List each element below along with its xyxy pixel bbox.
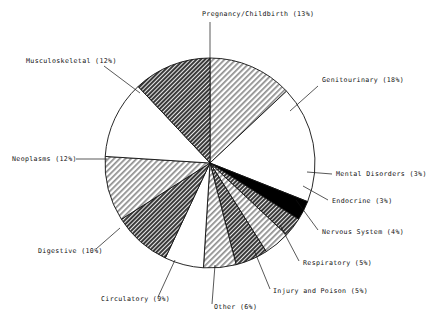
leader-line [254,250,270,289]
pie-slice-label: Pregnancy/Childbirth (13%) [202,10,314,18]
pie-chart-figure: Pregnancy/Childbirth (13%)Genitourinary … [0,0,430,327]
pie-slice-label: Respiratory (5%) [303,259,372,267]
leader-line [290,86,318,111]
pie-slice-label: Digestive (10%) [38,247,103,255]
pie-slice-label: Mental Disorders (3%) [336,170,427,178]
pie-slice-label: Circulatory (9%) [101,295,170,303]
pie-slice-label: Musculoskeletal (12%) [26,57,117,65]
pie-slice-label: Injury and Poison (5%) [273,287,368,295]
pie-slice-label: Nervous System (4%) [322,228,404,236]
pie-slice-label: Other (6%) [214,303,257,311]
pie-slices [105,58,315,268]
leader-line [158,260,175,297]
pie-slice-label: Genitourinary (18%) [322,76,404,84]
pie-slice-label: Endocrine (3%) [332,197,392,205]
pie-chart-canvas: Pregnancy/Childbirth (13%)Genitourinary … [0,0,430,327]
leader-line [212,265,215,304]
pie-slice-label: Neoplasms (12%) [12,155,77,163]
leader-line [104,66,140,93]
leader-line [96,228,120,249]
